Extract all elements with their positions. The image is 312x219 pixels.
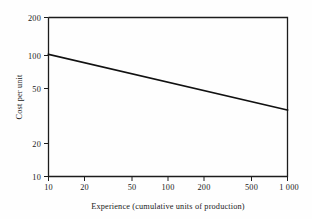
y-tick-label-200: 200 — [28, 14, 41, 23]
x-axis-title: Experience (cumulative units of producti… — [91, 202, 245, 211]
x-tick-label-10: 10 — [44, 183, 53, 192]
y-tick-label-100: 100 — [28, 52, 41, 61]
x-tick-label-1000: 1 000 — [279, 183, 299, 192]
x-tick-label-50: 50 — [128, 183, 137, 192]
x-tick-marks — [49, 177, 288, 182]
y-tick-label-20: 20 — [32, 140, 41, 149]
x-tick-label-200: 200 — [197, 183, 210, 192]
y-axis-title: Cost per unit — [15, 74, 24, 119]
x-tick-label-100: 100 — [161, 183, 174, 192]
x-tick-label-20: 20 — [80, 183, 89, 192]
chart-canvas: 200 100 50 20 10 10 20 50 100 200 500 1 … — [0, 0, 312, 219]
experience-curve-figure: 200 100 50 20 10 10 20 50 100 200 500 1 … — [0, 0, 312, 219]
y-tick-label-50: 50 — [32, 85, 41, 94]
y-tick-label-10: 10 — [32, 173, 41, 182]
x-tick-label-500: 500 — [245, 183, 258, 192]
